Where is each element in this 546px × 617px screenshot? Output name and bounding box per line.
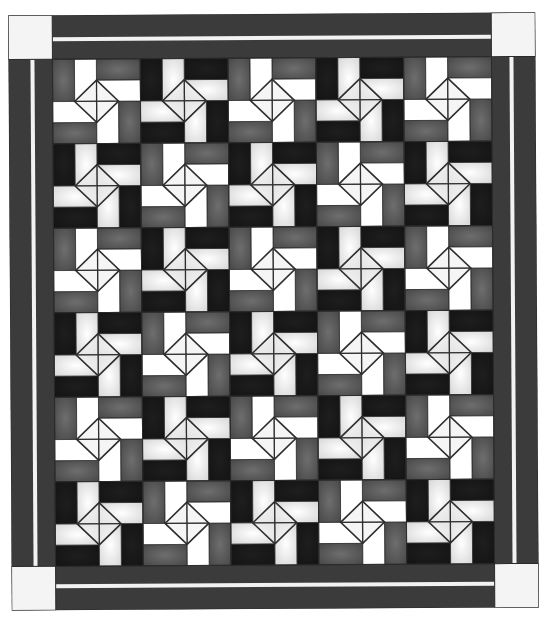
outer-strip [472, 521, 494, 563]
outer-strip [406, 395, 428, 437]
outer-strip [209, 523, 231, 565]
outer-strip [98, 312, 142, 333]
pinwheel-block [406, 395, 494, 480]
outer-strip [121, 524, 143, 566]
outer-strip [120, 355, 142, 397]
pinwheel-block [230, 396, 318, 481]
outer-strip [229, 227, 251, 269]
outer-strip [316, 121, 360, 142]
corner-square-bottom-right [495, 563, 539, 607]
pinwheel-block [405, 226, 493, 311]
outer-strip [362, 395, 406, 416]
pinwheel-block [53, 143, 141, 228]
outer-strip [186, 312, 230, 333]
outer-strip [318, 480, 340, 522]
outer-strip [229, 290, 273, 311]
outer-strip [142, 291, 186, 312]
outer-strip [318, 374, 362, 395]
pinwheel-block [229, 142, 317, 227]
outer-strip [275, 480, 319, 501]
pinwheel-block [143, 481, 231, 566]
outer-strip [229, 143, 251, 185]
outer-strip [141, 206, 185, 227]
outer-strip [142, 312, 164, 354]
outer-strip [228, 58, 250, 100]
outer-strip [120, 270, 142, 312]
pinwheel-block [406, 479, 494, 564]
outer-strip [406, 374, 450, 395]
outer-strip [384, 437, 406, 479]
outer-strip [142, 397, 164, 439]
outer-strip [316, 58, 338, 100]
quilt [8, 12, 539, 610]
pinwheel-block [53, 228, 141, 313]
outer-strip [143, 544, 187, 565]
pinwheel-block [142, 312, 230, 397]
outer-strip [450, 395, 494, 416]
outer-strip [360, 142, 404, 163]
outer-strip [54, 376, 98, 397]
outer-strip [405, 311, 427, 353]
quilt-svg [8, 12, 539, 610]
outer-strip [119, 101, 141, 143]
outer-strip [318, 459, 362, 480]
outer-strip [54, 313, 76, 355]
pinwheel-block [52, 59, 140, 144]
outer-strip [385, 522, 407, 564]
outer-strip [273, 227, 317, 248]
outer-strip [53, 228, 75, 270]
pinwheel-block [316, 142, 404, 227]
outer-strip [297, 522, 319, 564]
pinwheel-block [404, 57, 492, 142]
pinwheel-block [141, 143, 229, 228]
corner-square-top-left [8, 15, 52, 59]
outer-strip [98, 397, 142, 418]
outer-strip [406, 458, 450, 479]
outer-strip [448, 141, 492, 162]
outer-strip [274, 311, 318, 332]
outer-strip [186, 396, 230, 417]
outer-strip [318, 396, 340, 438]
outer-strip [119, 186, 141, 228]
outer-strip [231, 544, 275, 565]
outer-strip [141, 143, 163, 185]
outer-strip [230, 312, 252, 354]
outer-strip [187, 481, 231, 502]
pinwheel-block [230, 311, 318, 396]
outer-strip [142, 375, 186, 396]
outer-strip [405, 205, 449, 226]
outer-strip [97, 143, 141, 164]
outer-strip [140, 59, 162, 101]
outer-strip [141, 228, 163, 270]
pinwheel-block [231, 480, 319, 565]
outer-strip [96, 59, 140, 80]
outer-strip [361, 226, 405, 247]
outer-strip [141, 122, 185, 143]
outer-strip [404, 57, 426, 99]
pinwheel-block [318, 480, 406, 565]
outer-strip [53, 144, 75, 186]
outer-strip [272, 142, 316, 163]
pinwheel-block [317, 311, 405, 396]
outer-strip [360, 57, 404, 78]
outer-strip [231, 459, 275, 480]
pinwheel-block [142, 396, 230, 481]
outer-strip [184, 58, 228, 79]
outer-strip [319, 543, 363, 564]
outer-strip [317, 227, 339, 269]
outer-strip [228, 121, 272, 142]
outer-strip [208, 354, 230, 396]
outer-strip [404, 120, 448, 141]
pinwheel-block [317, 226, 405, 311]
outer-strip [185, 143, 229, 164]
outer-strip [121, 439, 143, 481]
pinwheel-block [54, 312, 142, 397]
outer-strip [55, 397, 77, 439]
outer-strip [471, 352, 493, 394]
outer-strip [449, 226, 493, 247]
outer-strip [54, 291, 98, 312]
outer-strip [296, 353, 318, 395]
outer-strip [53, 122, 97, 143]
outer-strip [97, 228, 141, 249]
pinwheel-block [405, 310, 493, 395]
